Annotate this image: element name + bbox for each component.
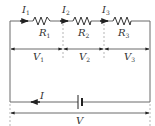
label-v1: V1: [33, 51, 44, 63]
label-v2: V2: [79, 51, 90, 63]
label-r2: R2: [77, 27, 90, 39]
resistor-r2-icon: [73, 17, 91, 25]
resistor-r3-icon: [113, 17, 131, 25]
label-i2: I2: [61, 4, 70, 16]
resistor-r1-icon: [33, 17, 50, 25]
label-i1: I1: [21, 4, 30, 16]
battery-icon: [78, 95, 82, 109]
label-r3: R3: [117, 27, 130, 39]
circuit-diagram: I1 I2 I3 R1 R2 R3 V1 V2 V3 I V: [0, 0, 155, 126]
label-total-voltage: V: [76, 115, 85, 126]
label-r1: R1: [38, 27, 50, 39]
label-v3: V3: [124, 51, 135, 63]
label-source-current: I: [39, 90, 45, 101]
label-i3: I3: [101, 4, 110, 16]
dashed-guides: [10, 24, 150, 126]
